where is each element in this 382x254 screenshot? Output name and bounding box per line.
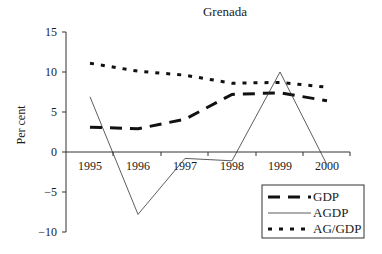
series-line-ag-gdp [90, 63, 327, 87]
x-tick-label: 1996 [126, 159, 150, 173]
y-axis: 15 10 5 0 −5 −10 [38, 25, 66, 239]
y-tick-label: −10 [38, 225, 57, 239]
x-tick-label: 1999 [268, 159, 292, 173]
y-tick-label: −5 [44, 185, 57, 199]
x-tick-label: 1997 [173, 159, 197, 173]
chart: Grenada Per cent 15 10 5 0 −5 −10 1995 1… [0, 0, 382, 254]
y-tick-label: 5 [51, 105, 57, 119]
y-axis-label: Per cent [14, 105, 28, 145]
legend-label: AG/GDP [313, 221, 361, 236]
x-axis: 1995 1996 1997 1998 1999 2000 [66, 152, 350, 173]
legend-label: AGDP [313, 205, 348, 220]
legend: GDP AGDP AG/GDP [262, 185, 364, 238]
series-line-gdp [90, 93, 327, 129]
x-tick-label: 1995 [78, 159, 102, 173]
y-tick-label: 10 [45, 65, 57, 79]
y-tick-label: 0 [51, 145, 57, 159]
x-tick-label: 2000 [315, 159, 339, 173]
y-tick-label: 15 [45, 25, 57, 39]
legend-label: GDP [313, 189, 339, 204]
chart-title: Grenada [203, 4, 247, 19]
